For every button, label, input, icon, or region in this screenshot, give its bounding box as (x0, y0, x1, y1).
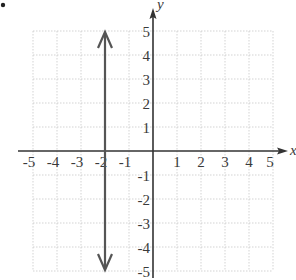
x-tick: 2 (197, 154, 205, 170)
y-tick: 5 (143, 24, 151, 40)
y-tick: -5 (138, 264, 151, 280)
x-tick: -3 (71, 154, 84, 170)
x-tick: -4 (47, 154, 60, 170)
y-tick: 2 (143, 96, 151, 112)
x-tick: -5 (23, 154, 36, 170)
y-tick: -4 (138, 240, 151, 256)
x-tick: 1 (173, 154, 181, 170)
y-tick: -1 (138, 168, 151, 184)
y-axis-label: y (155, 0, 164, 12)
y-tick: 3 (143, 72, 151, 88)
y-axis: y (150, 0, 165, 278)
y-tick: -3 (138, 216, 151, 232)
x-tick: 4 (245, 154, 253, 170)
x-tick: -1 (119, 154, 132, 170)
x-tick: 3 (221, 154, 229, 170)
y-tick: -2 (138, 192, 151, 208)
x-axis-label: x (289, 142, 296, 158)
x-tick: 5 (266, 154, 274, 170)
y-tick: 1 (143, 120, 151, 136)
y-tick-labels: 5 4 3 2 1 -1 -2 -3 -4 -5 (138, 24, 151, 280)
y-tick: 4 (143, 48, 151, 64)
x-axis: x (18, 142, 296, 158)
corner-marker (1, 3, 5, 7)
